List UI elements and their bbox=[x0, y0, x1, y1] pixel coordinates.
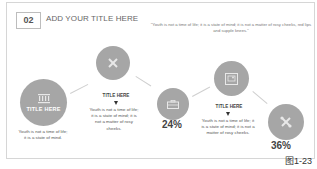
pencil-ruler-icon bbox=[106, 56, 120, 70]
node-circle-5 bbox=[268, 104, 304, 140]
node-2-text: Youth is not a time of life; it is a sta… bbox=[88, 107, 140, 132]
node-1-label: TITLE HERE bbox=[26, 106, 60, 112]
page-title: ADD YOUR TITLE HERE bbox=[46, 14, 138, 23]
node-circle-2 bbox=[96, 46, 130, 80]
triangle-down-icon bbox=[226, 112, 230, 116]
node-circle-1: TITLE HERE bbox=[20, 79, 67, 126]
node-2-title: TITLE HERE bbox=[101, 93, 131, 98]
briefcase-icon bbox=[167, 100, 179, 109]
triangle-down-icon bbox=[114, 101, 118, 105]
node-1-text: Youth is not a time of life; it is a sta… bbox=[18, 129, 68, 141]
tools-icon bbox=[279, 115, 293, 129]
node-4-text: Youth is not a time of life; it is a sta… bbox=[201, 118, 255, 137]
figure-label: 图1-23 bbox=[285, 154, 312, 167]
section-number: 02 bbox=[16, 12, 41, 29]
quote-text: "Youth is not a time of life; it is a st… bbox=[150, 22, 312, 35]
picture-frame-icon bbox=[225, 73, 238, 85]
node-3-value: 24% bbox=[162, 119, 182, 130]
building-icon bbox=[37, 93, 51, 104]
node-circle-4 bbox=[214, 61, 249, 96]
node-circle-3 bbox=[157, 88, 189, 120]
node-5-value: 36% bbox=[271, 140, 291, 151]
node-4-title: TITLE HERE bbox=[214, 104, 244, 109]
